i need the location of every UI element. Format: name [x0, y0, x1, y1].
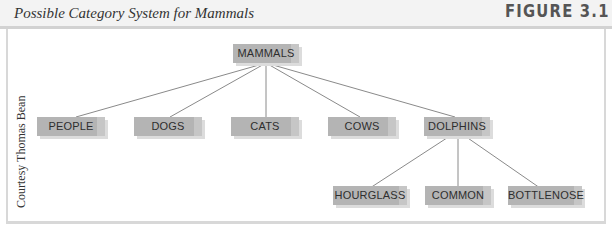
node-hourglass: HOURGLASS	[333, 186, 407, 205]
node-mammals: MAMMALS	[233, 44, 299, 63]
node-dogs: DOGS	[134, 117, 202, 136]
node-people: PEOPLE	[37, 117, 105, 136]
node-cats: CATS	[231, 117, 299, 136]
node-dolphins: DOLPHINS	[424, 117, 490, 136]
node-bottlenose: BOTTLENOSE	[508, 186, 582, 205]
node-cows: COWS	[328, 117, 396, 136]
node-common: COMMON	[425, 186, 491, 205]
